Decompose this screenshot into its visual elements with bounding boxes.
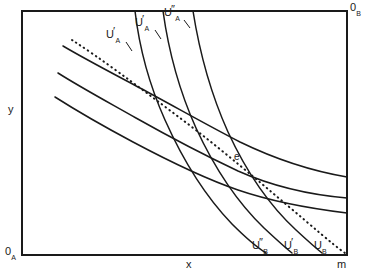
diagram-canvas bbox=[0, 0, 368, 277]
origin-b-label: 0B bbox=[350, 2, 361, 15]
prime-mark: ″ bbox=[171, 3, 174, 15]
label-leader-ua1 bbox=[126, 42, 132, 51]
curve-label-u-b-3: UB bbox=[314, 240, 327, 253]
label-leader-ua2 bbox=[155, 30, 161, 39]
origin-a-label: 0A bbox=[5, 246, 16, 259]
label-leader-ua3 bbox=[184, 20, 190, 28]
curve-label-u-a-3: U″A bbox=[164, 7, 180, 20]
curve-label-u-a-1: U′A bbox=[106, 29, 120, 42]
contract-curve bbox=[72, 40, 345, 253]
subscript-a: A bbox=[145, 25, 150, 32]
curve-label-u-b-1: U″B bbox=[252, 240, 268, 253]
prime-mark: ′ bbox=[142, 13, 144, 25]
curve-label-u-b-2: U′B bbox=[284, 240, 298, 253]
subscript-b: B bbox=[294, 248, 299, 255]
prime-mark: ′ bbox=[291, 236, 293, 248]
box-border bbox=[22, 11, 347, 255]
x-axis-label: x bbox=[186, 259, 192, 270]
equilibrium-point-label: e bbox=[234, 152, 240, 162]
origin-a-subscript: A bbox=[11, 254, 16, 261]
x-max-label: m bbox=[337, 259, 346, 270]
subscript-a: A bbox=[116, 37, 121, 44]
subscript-a: A bbox=[175, 15, 180, 22]
curve-label-u-a-2: U′A bbox=[135, 17, 149, 30]
curve-u-a-3 bbox=[55, 97, 347, 213]
y-axis-label: y bbox=[8, 104, 14, 115]
curve-u-a-2 bbox=[58, 73, 347, 198]
subscript-b: B bbox=[322, 248, 327, 255]
subscript-b: B bbox=[263, 248, 268, 255]
prime-mark: ″ bbox=[259, 236, 262, 248]
edgeworth-box-figure: 0A 0B y x m U′A U′A U″A U″B U′B UB e bbox=[0, 0, 368, 277]
prime-mark: ′ bbox=[113, 25, 115, 37]
origin-b-subscript: B bbox=[356, 10, 361, 17]
curve-u-b-3 bbox=[193, 11, 322, 253]
